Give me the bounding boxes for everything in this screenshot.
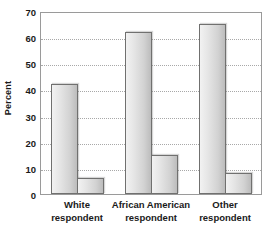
y-tick-label: 20 (25, 137, 36, 148)
y-tick-label: 70 (25, 7, 36, 18)
bar (151, 155, 178, 194)
x-axis-label-line: Other (177, 199, 273, 212)
x-axis-label-line: respondent (177, 212, 273, 225)
bar-chart: Percent 010203040506070 WhiterespondentA… (0, 0, 274, 238)
bar (125, 32, 152, 194)
x-axis-category-labels: WhiterespondentAfrican Americanresponden… (40, 199, 262, 238)
y-tick-label: 50 (25, 59, 36, 70)
bar-group (125, 13, 179, 194)
bar (225, 173, 252, 194)
bar (77, 178, 104, 194)
plot-area (40, 12, 262, 195)
y-tick-label: 30 (25, 111, 36, 122)
y-axis-tick-labels: 010203040506070 (14, 0, 38, 196)
bar-group (199, 13, 253, 194)
bar (51, 84, 78, 194)
y-axis-title-label: Percent (3, 81, 13, 115)
bar-group (51, 13, 105, 194)
bars-layer (41, 13, 261, 194)
y-tick-label: 10 (25, 163, 36, 174)
bar (199, 24, 226, 194)
y-tick-label: 60 (25, 33, 36, 44)
x-axis-label: Otherrespondent (177, 199, 273, 224)
y-tick-label: 40 (25, 85, 36, 96)
